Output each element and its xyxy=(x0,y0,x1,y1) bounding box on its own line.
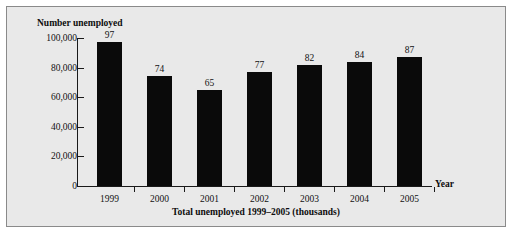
x-axis-category-label: 2005 xyxy=(385,194,435,205)
y-axis-title: Number unemployed xyxy=(37,18,123,28)
bar-rect xyxy=(297,65,322,186)
bar-value-label: 87 xyxy=(405,45,415,55)
y-axis-tick xyxy=(77,68,84,69)
y-axis-tick xyxy=(77,38,84,39)
bar-rect xyxy=(197,90,222,186)
x-axis-category-label: 2000 xyxy=(135,194,185,205)
x-axis-tick xyxy=(284,187,285,192)
y-axis-tick-label: 0 xyxy=(25,182,77,191)
y-axis-tick xyxy=(77,127,84,128)
x-axis-category-label: 2002 xyxy=(235,194,285,205)
y-axis-tick-label-wrap: 80,000 xyxy=(7,64,77,65)
bar-value-label: 97 xyxy=(105,30,115,40)
bar-rect xyxy=(397,57,422,186)
y-axis-tick-label: 100,000 xyxy=(25,34,77,43)
chart-figure: Number unemployed 020,00040,00060,00080,… xyxy=(6,6,506,227)
bar[interactable]: 82 xyxy=(297,65,322,186)
y-axis-tick-label: 60,000 xyxy=(25,93,77,102)
x-axis-tick xyxy=(334,187,335,192)
x-axis-category-label: 1999 xyxy=(85,194,135,205)
x-axis-category-label: 2003 xyxy=(285,194,335,205)
bar[interactable]: 97 xyxy=(97,42,122,186)
bar-value-label: 74 xyxy=(155,64,165,74)
y-axis-tick xyxy=(77,156,84,157)
bar[interactable]: 77 xyxy=(247,72,272,186)
x-axis-tick xyxy=(234,187,235,192)
x-axis-tick xyxy=(384,187,385,192)
bar-value-label: 84 xyxy=(355,50,365,60)
y-axis-tick xyxy=(77,186,84,187)
bar-rect xyxy=(347,62,372,186)
x-axis-tick xyxy=(134,187,135,192)
bar-value-label: 65 xyxy=(205,78,215,88)
x-axis-category-label: 2004 xyxy=(335,194,385,205)
y-axis-tick-label: 80,000 xyxy=(25,64,77,73)
bar[interactable]: 65 xyxy=(197,90,222,186)
y-axis-line xyxy=(77,38,78,186)
bar-rect xyxy=(97,42,122,186)
bar[interactable]: 87 xyxy=(397,57,422,186)
x-axis-tick xyxy=(184,187,185,192)
bar-value-label: 77 xyxy=(255,60,265,70)
x-axis-category-label: 2001 xyxy=(185,194,235,205)
bar-rect xyxy=(147,76,172,186)
bar[interactable]: 84 xyxy=(347,62,372,186)
y-axis-tick-label-wrap: 0 xyxy=(7,182,77,183)
bar-chart-plot-area: Number unemployed 020,00040,00060,00080,… xyxy=(7,7,505,226)
y-axis-tick-label-wrap: 20,000 xyxy=(7,152,77,153)
bar-rect xyxy=(247,72,272,186)
y-axis-tick-label: 40,000 xyxy=(25,123,77,132)
bar[interactable]: 74 xyxy=(147,76,172,186)
x-axis-line xyxy=(77,186,432,187)
y-axis-tick-label: 20,000 xyxy=(25,152,77,161)
y-axis-tick-label-wrap: 40,000 xyxy=(7,123,77,124)
bar-value-label: 82 xyxy=(305,53,315,63)
chart-caption: Total unemployed 1999–2005 (thousands) xyxy=(7,207,505,217)
y-axis-tick-label-wrap: 60,000 xyxy=(7,93,77,94)
y-axis-tick-label-wrap: 100,000 xyxy=(7,34,77,35)
x-axis-title: Year xyxy=(435,179,454,189)
y-axis-tick xyxy=(77,97,84,98)
